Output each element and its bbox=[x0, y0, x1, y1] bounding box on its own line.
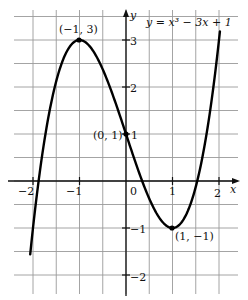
min-point-marker bbox=[169, 225, 174, 230]
y-tick-label-minus-2: −2 bbox=[130, 271, 146, 284]
max-point-marker bbox=[76, 37, 81, 42]
intercept-point-label: (0, 1) bbox=[93, 129, 123, 142]
min-point-label: (1, −1) bbox=[175, 230, 214, 243]
y-intercept-marker bbox=[123, 131, 128, 136]
y-axis-arrow-icon bbox=[123, 9, 129, 17]
x-tick-label-1: 1 bbox=[169, 185, 176, 198]
equation-rhs: = x³ − 3x + 1 bbox=[152, 16, 231, 29]
y-tick-label-3: 3 bbox=[130, 35, 137, 48]
y-axis-label: y bbox=[129, 9, 137, 22]
cubic-curve bbox=[30, 31, 220, 254]
cubic-function-plot: x y y = x³ − 3x + 1 −2 −1 0 1 2 3 2 1 −1… bbox=[0, 0, 248, 300]
x-tick-label-2: 2 bbox=[214, 187, 221, 200]
x-axis-label: x bbox=[230, 183, 237, 196]
y-tick-label-2: 2 bbox=[130, 82, 137, 95]
x-tick-label-minus-2: −2 bbox=[18, 185, 34, 198]
origin-label: 0 bbox=[130, 185, 137, 198]
y-tick-label-1: 1 bbox=[131, 129, 138, 142]
equation-label: y = x³ − 3x + 1 bbox=[145, 16, 232, 29]
max-point-label: (−1, 3) bbox=[59, 23, 98, 36]
x-tick-label-minus-1: −1 bbox=[66, 185, 82, 198]
y-tick-label-minus-1: −1 bbox=[130, 223, 146, 236]
